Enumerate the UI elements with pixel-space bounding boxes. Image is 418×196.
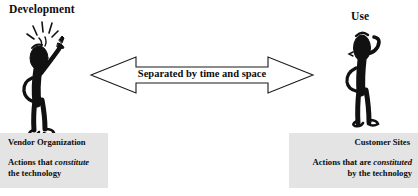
vendor-body-line-1: Actions that constitute [8,157,104,168]
vendor-organization-body: Actions that constitute the technology [8,157,104,179]
vendor-organization-heading: Vendor Organization [8,137,104,148]
customer-body-line1-italic: constituted [373,157,412,167]
customer-body-line-1: Actions that are constituted [293,157,412,168]
diagram-canvas: Development Use [0,0,418,196]
customer-body-line-2: by the technology [293,168,412,179]
customer-sites-box: Customer Sites Actions that are constitu… [289,133,418,188]
user-stick-figure-icon [333,26,401,138]
customer-sites-heading: Customer Sites [293,137,412,148]
vendor-body-line1-italic: constitute [55,157,89,167]
label-development: Development [9,3,75,15]
arrow-label: Separated by time and space [88,66,316,82]
vendor-organization-box: Vendor Organization Actions that constit… [0,133,108,188]
label-use: Use [351,10,369,22]
customer-sites-body: Actions that are constituted by the tech… [293,157,412,179]
customer-body-line1-pre: Actions that are [313,157,374,167]
developer-stick-figure-icon [14,18,96,140]
vendor-body-line-2: the technology [8,168,104,179]
vendor-body-line1-pre: Actions that [8,157,55,167]
